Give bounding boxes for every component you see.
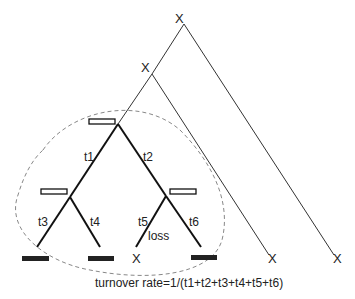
filled-rect-leaf-4 — [191, 255, 217, 260]
branch-root-to-mid — [152, 24, 184, 74]
open-rect-left-child — [41, 189, 67, 194]
filled-rect-leaf-2 — [88, 256, 114, 261]
label-t6: t6 — [189, 216, 199, 228]
label-t2: t2 — [143, 151, 153, 163]
branch-mid-to-inner — [118, 74, 152, 124]
x-marker-mid: X — [141, 61, 150, 74]
branch-root-right — [184, 24, 334, 255]
open-rect-right-child — [170, 189, 196, 194]
x-marker-root: X — [175, 12, 184, 25]
turnover-rate-formula: turnover rate=1/(t1+t2+t3+t4+t5+t6) — [95, 276, 283, 290]
branch-t2 — [118, 124, 166, 196]
filled-rect-leaf-1 — [22, 256, 49, 261]
label-t4: t4 — [90, 216, 100, 228]
x-marker-leaf-3: X — [132, 252, 141, 265]
label-t5: t5 — [138, 216, 148, 228]
tree-diagram — [0, 0, 355, 299]
open-rect-inner-root — [89, 119, 115, 124]
label-t1: t1 — [84, 151, 94, 163]
label-loss: loss — [148, 230, 169, 242]
x-marker-leaf-6: X — [333, 252, 342, 265]
label-t3: t3 — [38, 216, 48, 228]
branch-mid-right — [152, 74, 269, 255]
x-marker-leaf-5: X — [268, 252, 277, 265]
